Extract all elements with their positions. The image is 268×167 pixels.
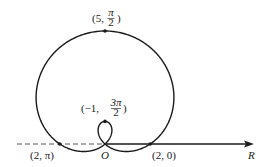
limacon-curve xyxy=(36,31,174,152)
polar-diagram: (5, π 2 ) (−1, 3π 2 ) (2, π) (2, 0) O R xyxy=(0,0,268,167)
label-top-close: ) xyxy=(117,12,121,25)
point-left-dot xyxy=(58,142,62,146)
label-inner-close: ) xyxy=(123,102,127,115)
point-inner-dot xyxy=(103,120,107,124)
axis-label: R xyxy=(247,149,255,161)
label-inner-r: (−1, xyxy=(81,102,99,115)
label-inner-den: 2 xyxy=(113,106,119,118)
label-top-den: 2 xyxy=(108,16,114,28)
point-top-dot xyxy=(103,29,107,33)
label-inner: (−1, 3π 2 ) xyxy=(81,96,127,118)
origin-label: O xyxy=(101,149,109,161)
point-right-dot xyxy=(148,142,152,146)
label-top: (5, π 2 ) xyxy=(92,6,121,28)
label-left: (2, π) xyxy=(30,149,54,162)
label-right: (2, 0) xyxy=(152,149,176,162)
label-top-r: (5, xyxy=(92,12,104,25)
